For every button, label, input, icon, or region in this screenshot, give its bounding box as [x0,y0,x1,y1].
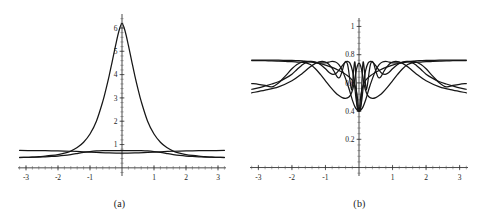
x-tick-label: -3 [23,173,29,182]
figure-root: -3-2-1123123456 (a) -3-2-11230.20.40.60.… [0,0,479,223]
x-tick-label: 2 [424,173,428,182]
x-tick-label: 1 [152,173,156,182]
x-tick-label: -2 [289,173,295,182]
panel-a: -3-2-1123123456 (a) [0,0,239,223]
y-tick-label: 3 [114,94,118,103]
x-tick-label: 1 [391,173,395,182]
plot-b: -3-2-11230.20.40.60.81 [240,0,479,196]
x-tick-label: -1 [322,173,328,182]
y-tick-label: 1 [114,140,118,149]
caption-b: (b) [240,198,479,210]
y-tick-label: 0.2 [345,135,355,144]
x-tick-label: 3 [216,173,220,182]
x-tick-label: 2 [184,173,188,182]
y-tick-label: 1 [351,22,355,31]
y-tick-label: 4 [114,70,118,79]
x-tick-label: -1 [87,173,93,182]
y-tick-label: 6 [114,24,118,33]
x-tick-label: -2 [55,173,61,182]
y-tick-label: 0.4 [345,107,355,116]
y-tick-label: 2 [114,117,118,126]
y-tick-label: 0.8 [345,50,355,59]
x-tick-label: -3 [255,173,261,182]
x-tick-label: 3 [458,173,462,182]
plot-a: -3-2-1123123456 [0,0,239,196]
caption-a: (a) [0,198,239,210]
panel-b: -3-2-11230.20.40.60.81 (b) [240,0,479,223]
